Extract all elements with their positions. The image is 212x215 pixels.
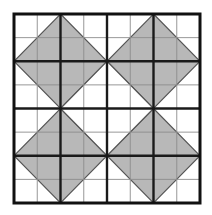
quilt-block-canvas — [0, 0, 212, 215]
quilt-block-figure — [0, 0, 212, 215]
